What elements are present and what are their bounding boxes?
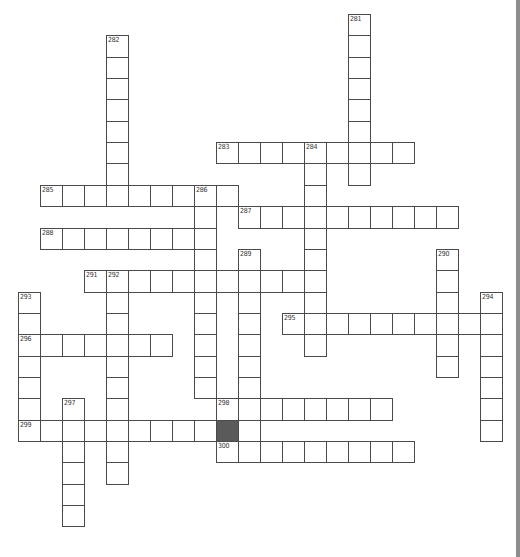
letter-input[interactable] <box>261 399 282 420</box>
letter-input[interactable] <box>349 207 370 228</box>
crossword-cell[interactable] <box>370 398 393 421</box>
letter-input[interactable] <box>305 164 326 185</box>
letter-input[interactable] <box>129 421 150 441</box>
letter-input[interactable] <box>481 399 502 420</box>
letter-input[interactable] <box>305 335 326 356</box>
crossword-cell[interactable] <box>84 420 107 442</box>
crossword-cell[interactable] <box>326 398 349 421</box>
letter-input[interactable] <box>261 442 282 462</box>
crossword-cell[interactable] <box>150 228 173 250</box>
letter-input[interactable] <box>349 442 370 462</box>
letter-input[interactable] <box>173 271 194 292</box>
crossword-cell[interactable] <box>304 270 327 293</box>
crossword-cell[interactable] <box>106 78 129 100</box>
crossword-cell[interactable] <box>106 313 129 335</box>
letter-input[interactable] <box>481 314 502 334</box>
letter-input[interactable] <box>63 442 84 462</box>
letter-input[interactable] <box>261 207 282 228</box>
letter-input[interactable] <box>437 250 458 270</box>
crossword-cell[interactable] <box>84 185 107 207</box>
crossword-cell[interactable] <box>436 206 459 229</box>
letter-input[interactable] <box>129 186 150 206</box>
letter-input[interactable] <box>305 207 326 228</box>
crossword-cell[interactable] <box>436 334 459 357</box>
letter-input[interactable] <box>481 421 502 441</box>
crossword-cell[interactable] <box>40 420 63 442</box>
crossword-cell[interactable] <box>282 270 305 293</box>
letter-input[interactable] <box>85 421 106 441</box>
letter-input[interactable] <box>129 271 150 292</box>
letter-input[interactable] <box>305 293 326 313</box>
crossword-cell[interactable] <box>106 99 129 122</box>
crossword-cell[interactable] <box>172 185 195 207</box>
crossword-cell[interactable] <box>62 228 85 250</box>
letter-input[interactable] <box>63 229 84 249</box>
letter-input[interactable] <box>349 164 370 185</box>
letter-input[interactable] <box>371 143 392 163</box>
letter-input[interactable] <box>217 399 238 420</box>
crossword-cell[interactable]: 285 <box>40 185 63 207</box>
crossword-cell[interactable] <box>326 206 349 229</box>
crossword-cell[interactable] <box>172 420 195 442</box>
crossword-cell[interactable] <box>480 356 503 378</box>
letter-input[interactable] <box>217 442 238 462</box>
letter-input[interactable] <box>151 271 172 292</box>
letter-input[interactable] <box>327 207 348 228</box>
letter-input[interactable] <box>481 293 502 313</box>
letter-input[interactable] <box>41 335 62 356</box>
letter-input[interactable] <box>151 421 172 441</box>
crossword-cell[interactable] <box>62 484 85 506</box>
crossword-cell[interactable] <box>238 142 261 164</box>
crossword-cell[interactable] <box>150 334 173 357</box>
crossword-cell[interactable] <box>194 270 217 293</box>
letter-input[interactable] <box>239 378 260 398</box>
crossword-cell[interactable] <box>282 441 305 463</box>
crossword-cell[interactable] <box>172 270 195 293</box>
letter-input[interactable] <box>195 207 216 228</box>
crossword-cell[interactable] <box>326 313 349 335</box>
letter-input[interactable] <box>195 229 216 249</box>
letter-input[interactable] <box>305 186 326 206</box>
letter-input[interactable] <box>19 293 40 313</box>
letter-input[interactable] <box>107 357 128 377</box>
letter-input[interactable] <box>349 58 370 78</box>
letter-input[interactable] <box>129 229 150 249</box>
crossword-cell[interactable] <box>18 356 41 378</box>
crossword-cell[interactable]: 299 <box>18 420 41 442</box>
crossword-cell[interactable] <box>18 313 41 335</box>
crossword-cell[interactable] <box>106 377 129 399</box>
crossword-cell[interactable] <box>194 334 217 357</box>
crossword-cell[interactable] <box>304 185 327 207</box>
letter-input[interactable] <box>41 421 62 441</box>
crossword-cell[interactable] <box>282 142 305 164</box>
crossword-cell[interactable] <box>172 228 195 250</box>
crossword-cell[interactable] <box>194 292 217 314</box>
crossword-cell[interactable] <box>106 228 129 250</box>
crossword-cell[interactable] <box>348 57 371 79</box>
crossword-cell[interactable]: 289 <box>238 249 261 271</box>
crossword-cell[interactable] <box>194 420 217 442</box>
crossword-cell[interactable] <box>326 142 349 164</box>
crossword-cell[interactable] <box>458 313 481 335</box>
crossword-cell[interactable] <box>150 185 173 207</box>
crossword-cell[interactable] <box>194 249 217 271</box>
crossword-cell[interactable] <box>238 313 261 335</box>
letter-input[interactable] <box>437 271 458 292</box>
letter-input[interactable] <box>305 399 326 420</box>
letter-input[interactable] <box>371 207 392 228</box>
letter-input[interactable] <box>481 335 502 356</box>
letter-input[interactable] <box>107 421 128 441</box>
letter-input[interactable] <box>283 442 304 462</box>
letter-input[interactable] <box>107 36 128 57</box>
letter-input[interactable] <box>393 442 414 462</box>
crossword-cell[interactable] <box>106 142 129 164</box>
letter-input[interactable] <box>239 207 260 228</box>
letter-input[interactable] <box>437 335 458 356</box>
crossword-cell[interactable] <box>194 356 217 378</box>
crossword-cell[interactable] <box>392 206 415 229</box>
letter-input[interactable] <box>107 186 128 206</box>
crossword-cell[interactable] <box>84 334 107 357</box>
letter-input[interactable] <box>41 186 62 206</box>
crossword-cell[interactable] <box>106 163 129 186</box>
letter-input[interactable] <box>415 207 436 228</box>
